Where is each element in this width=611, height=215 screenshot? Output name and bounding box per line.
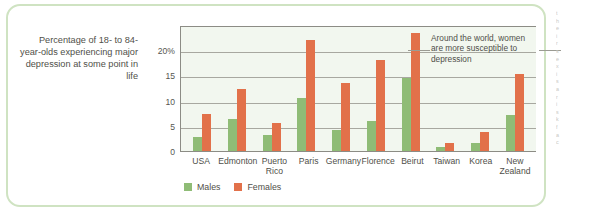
chart-annotation: Around the world, women are more suscept… (431, 33, 539, 64)
margin-text-line: r (556, 94, 608, 102)
bar-males-usa (193, 137, 202, 151)
x-label-new-zealand: New Zealand (498, 156, 532, 182)
x-label-taiwan: Taiwan (429, 156, 463, 182)
margin-text-line: s (556, 109, 608, 117)
bar-males-edmonton (228, 119, 237, 151)
bar-males-germany (332, 130, 341, 151)
bar-group (289, 27, 324, 151)
bar-females-taiwan (445, 143, 454, 151)
bar-females-usa (202, 114, 211, 151)
y-tick-20: 20% (158, 46, 175, 56)
legend-item-females: Females (234, 182, 281, 192)
margin-text-line: r (556, 40, 608, 48)
bar-females-puerto-rico (272, 123, 281, 151)
y-tick-5: 5 (170, 122, 175, 132)
margin-text-line: i (556, 33, 608, 41)
legend-label-males: Males (197, 182, 220, 192)
bar-females-new-zealand (515, 74, 524, 151)
bar-males-puerto-rico (263, 135, 272, 151)
margin-text-line: k (556, 116, 608, 124)
bar-males-florence (367, 121, 376, 151)
margin-text-line: c (556, 139, 608, 147)
y-axis-tick-labels: 05101520% (153, 26, 178, 152)
bar-group (185, 27, 220, 151)
margin-text-line: i (556, 101, 608, 109)
y-tick-0: 0 (170, 147, 175, 157)
legend-swatch-females-icon (234, 183, 242, 191)
y-axis-caption: Percentage of 18- to 84-year-olds experi… (18, 34, 138, 82)
margin-text-line: s (556, 78, 608, 86)
x-label-beirut: Beirut (395, 156, 429, 182)
x-axis-tick-labels: USAEdmontonPuerto RicoParisGermanyFloren… (180, 156, 536, 182)
chart-legend: Males Females (184, 182, 281, 192)
margin-text-line: x (556, 63, 608, 71)
bar-females-paris (306, 40, 315, 151)
bar-group (359, 27, 394, 151)
bar-group (393, 27, 428, 151)
bar-group (220, 27, 255, 151)
margin-text-line: a (556, 132, 608, 140)
margin-text-line: a (556, 86, 608, 94)
page-margin-text: theirsexisariskfac (556, 10, 608, 208)
bar-males-paris (297, 98, 306, 151)
margin-text-line: t (556, 10, 608, 18)
legend-label-females: Females (247, 182, 281, 192)
x-label-korea: Korea (464, 156, 498, 182)
x-label-puerto-rico: Puerto Rico (257, 156, 291, 182)
bar-males-new-zealand (506, 115, 515, 151)
x-label-paris: Paris (292, 156, 326, 182)
bar-females-florence (376, 60, 385, 151)
margin-text-line: s (556, 48, 608, 56)
x-label-florence: Florence (361, 156, 395, 182)
bar-females-germany (341, 83, 350, 151)
bar-males-taiwan (436, 147, 445, 151)
margin-text-line: f (556, 124, 608, 132)
x-label-usa: USA (184, 156, 218, 182)
legend-item-males: Males (184, 182, 220, 192)
margin-text-line: e (556, 25, 608, 33)
bar-males-beirut (402, 78, 411, 151)
x-label-germany: Germany (326, 156, 361, 182)
margin-text-line: i (556, 71, 608, 79)
bar-females-edmonton (237, 89, 246, 151)
legend-swatch-males-icon (184, 183, 192, 191)
annotation-leader-line-left (408, 50, 430, 51)
bar-females-korea (480, 132, 489, 151)
bar-group (254, 27, 289, 151)
y-tick-10: 10 (165, 97, 175, 107)
margin-text-line: e (556, 56, 608, 64)
y-tick-15: 15 (165, 71, 175, 81)
chart-figure: Percentage of 18- to 84-year-olds experi… (6, 4, 546, 207)
x-label-edmonton: Edmonton (218, 156, 257, 182)
margin-text-line: h (556, 18, 608, 26)
bar-group (324, 27, 359, 151)
bar-males-korea (471, 143, 480, 151)
